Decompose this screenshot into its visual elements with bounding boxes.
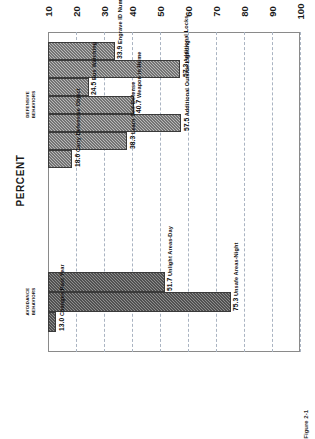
axis-tick-label: 30 [99, 0, 110, 25]
bar-category-label: Learn Self-Defense [130, 82, 136, 136]
bar-annotation: 57.5 Additional Outside Lighting [184, 40, 191, 131]
bar [48, 132, 127, 150]
plot-area: 102030405060708090100 33.9 Engrave ID Nu… [48, 32, 300, 352]
bar [48, 292, 231, 312]
figure-caption: Figure 2-1 [303, 410, 309, 439]
bar-value: 57.5 [183, 118, 190, 131]
axis-tick-label: 90 [267, 0, 278, 25]
bar-category-label: Changes Past Year [59, 264, 65, 318]
bar [48, 42, 115, 60]
bar-category-label: Unlight Areas-Day [167, 226, 173, 278]
bar-category-label: Unsafe Areas-Night [233, 243, 239, 298]
bar-value: 18.6 [74, 154, 81, 167]
bar-category-label: Weapon in Home [136, 51, 142, 99]
bar-annotation: 38.3 Learn Self-Defense [130, 82, 137, 149]
bar-category-label: Additional Outside Lighting [184, 40, 190, 117]
gridline [244, 32, 245, 352]
bar-value: 75.3 [232, 298, 239, 311]
axis-tick-label: 100 [295, 0, 306, 25]
bar [48, 150, 72, 168]
gridline [300, 32, 301, 352]
axis-tick-label: 70 [211, 0, 222, 25]
group-label-avoidance: AVOIDANCE BEHAVIORS [25, 280, 36, 324]
bar-annotation: 51.7 Unlight Areas-Day [167, 226, 174, 291]
bar [48, 114, 181, 132]
bar-annotation: 18.6 Carry Defensive Object [75, 88, 82, 167]
bar-category-label: Carry Defensive Object [75, 88, 81, 153]
axis-tick-label: 10 [43, 0, 54, 25]
bar-category-label: Engrave ID Numbers [117, 0, 123, 46]
bar-value: 51.7 [166, 278, 173, 291]
bar-value: 13.0 [58, 318, 65, 331]
bar-value: 38.3 [129, 136, 136, 149]
bar-annotation: 40.7 Weapon in Home [136, 51, 143, 113]
bar [48, 78, 89, 96]
gridline [272, 32, 273, 352]
bar-annotation: 75.3 Unsafe Areas-Night [233, 243, 240, 311]
bar-annotation: 33.9 Engrave ID Numbers [117, 0, 124, 59]
axis-tick-label: 80 [239, 0, 250, 25]
bar-value: 24.5 [90, 82, 97, 95]
bar [48, 96, 134, 114]
axis-title-percent: PERCENT [15, 141, 26, 221]
axis-tick-label: 50 [155, 0, 166, 25]
group-label-defensive: DEFENSIVE BEHAVIORS [25, 83, 36, 127]
bar-value: 33.9 [116, 46, 123, 59]
axis-tick-label: 40 [127, 0, 138, 25]
bar-annotation: 24.5 Bus Watching [91, 42, 98, 95]
bar [48, 60, 180, 78]
bar-category-label: Bus Watching [91, 42, 97, 82]
bar-annotation: 13.0 Changes Past Year [59, 264, 66, 331]
axis-tick-label: 20 [71, 0, 82, 25]
bar [48, 312, 56, 332]
